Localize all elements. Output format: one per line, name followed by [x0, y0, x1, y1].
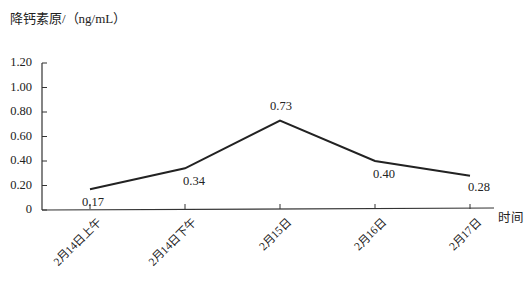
data-point-label: 0.40	[373, 167, 395, 182]
data-point-label: 0.28	[468, 180, 490, 195]
y-tick-label: 0.80	[2, 104, 32, 119]
y-tick-label: 0.60	[2, 129, 32, 144]
y-tick-label: 1.00	[2, 80, 32, 95]
data-point-label: 0.73	[270, 99, 292, 114]
y-tick-label: 0	[2, 202, 32, 217]
data-point-label: 0.34	[183, 174, 205, 189]
x-axis	[42, 208, 494, 210]
y-tick-label: 0.40	[2, 153, 32, 168]
y-tick-label: 0.20	[2, 178, 32, 193]
x-axis-title: 时间	[498, 207, 524, 226]
y-tick-label: 1.20	[2, 55, 32, 70]
y-axis-title: 降钙素原/（ng/mL）	[10, 8, 126, 27]
y-tick-marks	[42, 63, 47, 210]
data-point-label: 0.17	[82, 195, 104, 210]
data-line	[90, 121, 470, 190]
